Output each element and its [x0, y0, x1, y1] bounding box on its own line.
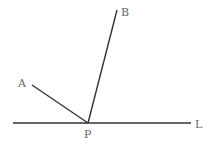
- label-P: P: [84, 128, 92, 141]
- segment-PB: [88, 10, 117, 123]
- label-B: B: [121, 6, 129, 19]
- segment-PA: [32, 85, 88, 123]
- label-L: L: [195, 118, 203, 131]
- label-A: A: [17, 77, 27, 90]
- geometry-diagram: A B P L: [0, 0, 214, 148]
